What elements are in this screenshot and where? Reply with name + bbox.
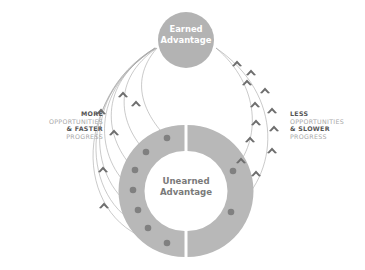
unearned-line1: Unearned bbox=[146, 176, 226, 187]
right-label-line1: LESS bbox=[290, 110, 344, 118]
unearned-advantage-label: Unearned Advantage bbox=[146, 176, 226, 198]
chevron-up-icon bbox=[99, 203, 109, 209]
chevron-up-icon bbox=[251, 171, 261, 177]
left-label-line1: MORE bbox=[49, 110, 103, 118]
left-label-line4: PROGRESS bbox=[49, 133, 103, 141]
right-label-line3: & SLOWER bbox=[290, 125, 344, 133]
unearned-line2: Advantage bbox=[146, 187, 226, 198]
chevron-up-icon bbox=[267, 108, 277, 114]
chevron-up-icon bbox=[131, 101, 141, 107]
chevron-up-icon bbox=[118, 92, 128, 98]
chevron-up-icon bbox=[246, 70, 256, 76]
earned-advantage-label: Earned Advantage bbox=[156, 24, 216, 46]
earned-line2: Advantage bbox=[156, 35, 216, 46]
chevron-up-icon bbox=[269, 126, 279, 132]
left-label-line3: & FASTER bbox=[49, 125, 103, 133]
right-label-line2: OPPORTUNITIES bbox=[290, 118, 344, 126]
chevron-up-icon bbox=[250, 102, 260, 108]
right-label-line4: PROGRESS bbox=[290, 133, 344, 141]
chevron-up-icon bbox=[98, 167, 108, 173]
chevron-up-icon bbox=[245, 137, 255, 143]
more-opportunities-label: MORE OPPORTUNITIES & FASTER PROGRESS bbox=[49, 110, 103, 140]
chevron-up-icon bbox=[267, 148, 277, 154]
earned-line1: Earned bbox=[156, 24, 216, 35]
left-label-line2: OPPORTUNITIES bbox=[49, 118, 103, 126]
chevron-up-icon bbox=[260, 88, 270, 94]
less-opportunities-label: LESS OPPORTUNITIES & SLOWER PROGRESS bbox=[290, 110, 344, 140]
